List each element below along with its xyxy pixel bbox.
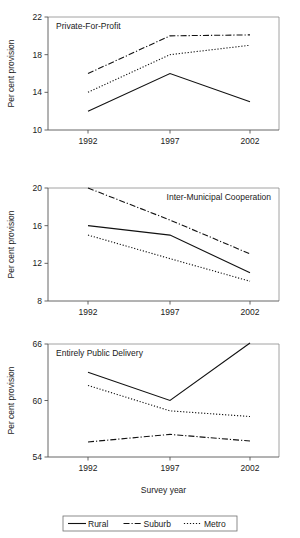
y-tick-label: 12 [33, 258, 43, 268]
chart-panel-1: 10141822199219972002Private-For-ProfitPe… [6, 12, 279, 146]
y-tick-label: 8 [37, 296, 42, 306]
y-tick-label: 66 [33, 339, 43, 349]
y-tick-label: 54 [33, 452, 43, 462]
series-line-metro [88, 45, 250, 92]
y-tick-label: 60 [33, 396, 43, 406]
panel-frame [48, 188, 279, 301]
panel-axes [48, 17, 279, 130]
y-tick-label: 20 [33, 183, 43, 193]
x-tick-label: 1992 [79, 136, 98, 146]
series-line-rural [88, 74, 250, 112]
panel-axes [48, 188, 279, 301]
y-axis-title: Per cent provision [6, 366, 16, 434]
x-tick-label: 1992 [79, 307, 98, 317]
series-line-suburb [88, 434, 250, 442]
x-tick-label: 2002 [241, 463, 260, 473]
x-tick-label: 2002 [241, 136, 260, 146]
x-tick-label: 1997 [161, 463, 180, 473]
series-line-metro [88, 235, 250, 281]
panel-title: Private-For-Profit [56, 21, 121, 31]
panel-frame [48, 17, 279, 130]
series-line-rural [88, 226, 250, 273]
legend-label-rural: Rural [88, 519, 108, 529]
y-axis-title: Per cent provision [6, 39, 16, 107]
x-tick-label: 2002 [241, 307, 260, 317]
legend: RuralSuburbMetro [63, 516, 237, 531]
y-axis-title: Per cent provision [6, 210, 16, 278]
y-tick-label: 14 [33, 87, 43, 97]
y-tick-label: 16 [33, 221, 43, 231]
legend-label-suburb: Suburb [144, 519, 172, 529]
x-tick-label: 1992 [79, 463, 98, 473]
y-tick-label: 22 [33, 12, 43, 22]
series-line-metro [88, 385, 250, 416]
chart-panel-2: 8121620199219972002Inter-Municipal Coope… [6, 183, 279, 317]
x-axis-title: Survey year [141, 485, 187, 495]
chart-svg: 10141822199219972002Private-For-ProfitPe… [0, 0, 300, 538]
series-line-suburb [88, 35, 250, 74]
legend-label-metro: Metro [204, 519, 226, 529]
y-tick-label: 18 [33, 50, 43, 60]
panel-title: Entirely Public Delivery [56, 348, 144, 358]
figure-container: 10141822199219972002Private-For-ProfitPe… [0, 0, 300, 538]
chart-panel-3: 546066199219972002Entirely Public Delive… [6, 339, 279, 495]
x-tick-label: 1997 [161, 307, 180, 317]
panel-title: Inter-Municipal Cooperation [167, 192, 272, 202]
y-tick-label: 10 [33, 125, 43, 135]
x-tick-label: 1997 [161, 136, 180, 146]
